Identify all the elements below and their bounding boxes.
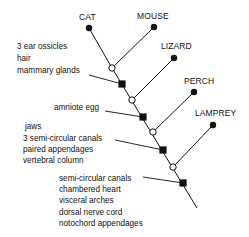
taxon-label-lamprey: LAMPREY: [195, 108, 237, 118]
branch-lamprey: [173, 125, 213, 167]
trait-label: jaws: [24, 122, 41, 131]
taxon-label-lizard: LIZARD: [161, 41, 192, 51]
taxon-dot-mouse: [151, 24, 157, 30]
trait-label: mammary glands: [17, 66, 80, 75]
trait-label: 3 semi-circular canals: [23, 134, 102, 143]
trait-label: visceral arches: [59, 196, 114, 205]
trunk-line: [112, 68, 197, 208]
trait-leader-line: [115, 140, 163, 150]
trait-leader-lines: [89, 75, 183, 183]
taxon-labels: CATMOUSELIZARDPERCHLAMPREY: [79, 11, 237, 118]
nodes: [86, 24, 216, 187]
taxon-dot-lizard: [171, 55, 177, 61]
branch-lizard: [132, 58, 174, 100]
branch-node-open: [170, 164, 176, 170]
trait-label: vertebral column: [23, 156, 84, 165]
branch-mouse: [112, 27, 154, 68]
taxon-label-perch: PERCH: [184, 76, 214, 86]
trait-label: hair: [17, 54, 31, 63]
trait-node-filled: [179, 179, 186, 186]
trait-label: paired appendages: [23, 145, 93, 154]
cladogram: CATMOUSELIZARDPERCHLAMPREY 3 ear ossicle…: [0, 0, 249, 237]
trait-labels: 3 ear ossicleshairmammary glandsamniote …: [17, 42, 143, 228]
trait-label: amniote egg: [54, 103, 100, 112]
taxon-dot-lamprey: [210, 122, 216, 128]
taxon-dot-perch: [191, 89, 197, 95]
trait-leader-line: [105, 111, 143, 117]
trait-label: chambered heart: [59, 185, 122, 194]
taxon-label-mouse: MOUSE: [137, 11, 169, 21]
trait-label: notochord appendages: [59, 219, 143, 228]
trait-leader-line: [143, 177, 183, 183]
trait-label: semi-circular canals: [59, 174, 131, 183]
taxon-dot-cat: [86, 25, 92, 31]
trait-label: dorsal nerve cord: [59, 208, 123, 217]
trait-node-filled: [139, 113, 146, 120]
branch-cat: [89, 28, 112, 68]
branch-node-open: [129, 97, 135, 103]
branch-node-open: [150, 129, 156, 135]
trait-label: 3 ear ossicles: [17, 42, 67, 51]
branch-perch: [153, 92, 194, 132]
branch-node-open: [109, 65, 115, 71]
trait-node-filled: [159, 146, 166, 153]
taxon-label-cat: CAT: [79, 12, 96, 22]
trait-node-filled: [118, 80, 125, 87]
